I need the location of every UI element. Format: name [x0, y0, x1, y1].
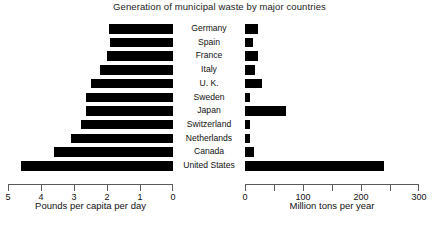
- bar-row-left: [8, 91, 173, 105]
- country-label: Spain: [173, 36, 245, 50]
- axis-tick: [418, 185, 419, 191]
- bar-row-right: [245, 77, 419, 91]
- bar-million-tons: [245, 161, 384, 171]
- axis-tick: [274, 185, 275, 191]
- country-label: U. K.: [173, 77, 245, 91]
- axis-tick: [74, 185, 75, 191]
- bar-pounds-per-capita: [107, 51, 173, 61]
- bar-million-tons: [245, 120, 250, 130]
- bar-pounds-per-capita: [100, 65, 173, 75]
- axis-tick: [140, 185, 141, 191]
- country-label: Germany: [173, 22, 245, 36]
- bar-row-right: [245, 49, 419, 63]
- bar-row-right: [245, 36, 419, 50]
- right-bar-panel: [245, 22, 419, 180]
- left-bar-panel: [8, 22, 173, 180]
- country-label: United States: [173, 159, 245, 173]
- axis-tick: [361, 185, 362, 191]
- bar-pounds-per-capita: [86, 106, 173, 116]
- bar-row-left: [8, 63, 173, 77]
- bar-row-left: [8, 104, 173, 118]
- bar-million-tons: [245, 134, 250, 144]
- bar-row-right: [245, 63, 419, 77]
- bar-million-tons: [245, 93, 250, 103]
- bar-million-tons: [245, 24, 258, 34]
- bar-row-left: [8, 145, 173, 159]
- axis-tick: [107, 185, 108, 191]
- bar-pounds-per-capita: [54, 147, 173, 157]
- country-label: Italy: [173, 63, 245, 77]
- bar-row-left: [8, 77, 173, 91]
- bar-row-left: [8, 132, 173, 146]
- waste-generation-chart: Generation of municipal waste by major c…: [0, 0, 439, 236]
- country-label: Japan: [173, 104, 245, 118]
- bar-million-tons: [245, 51, 258, 61]
- bar-row-right: [245, 118, 419, 132]
- bar-pounds-per-capita: [91, 79, 174, 89]
- bar-row-right: [245, 145, 419, 159]
- bar-million-tons: [245, 147, 254, 157]
- bar-row-right: [245, 132, 419, 146]
- right-axis: 0100200300: [245, 184, 419, 192]
- axis-tick: [390, 185, 391, 191]
- axis-tick: [41, 185, 42, 191]
- bar-row-right: [245, 104, 419, 118]
- bar-pounds-per-capita: [110, 38, 173, 48]
- axis-tick: [332, 185, 333, 191]
- bar-million-tons: [245, 65, 255, 75]
- bar-pounds-per-capita: [109, 24, 173, 34]
- bar-pounds-per-capita: [21, 161, 173, 171]
- bar-million-tons: [245, 38, 253, 48]
- country-label: Sweden: [173, 91, 245, 105]
- bar-row-left: [8, 118, 173, 132]
- bar-million-tons: [245, 106, 286, 116]
- bar-row-right: [245, 91, 419, 105]
- bar-row-right: [245, 159, 419, 173]
- bar-row-right: [245, 22, 419, 36]
- bar-row-left: [8, 49, 173, 63]
- axis-tick: [303, 185, 304, 191]
- bar-pounds-per-capita: [86, 93, 173, 103]
- bar-pounds-per-capita: [71, 134, 173, 144]
- bar-row-left: [8, 159, 173, 173]
- axis-tick: [245, 185, 246, 191]
- bar-million-tons: [245, 79, 262, 89]
- country-label: Switzerland: [173, 118, 245, 132]
- bar-row-left: [8, 36, 173, 50]
- chart-title: Generation of municipal waste by major c…: [0, 1, 439, 13]
- right-axis-title: Million tons per year: [245, 200, 419, 212]
- axis-tick: [8, 185, 9, 191]
- axis-tick: [172, 185, 173, 191]
- bar-pounds-per-capita: [81, 120, 173, 130]
- left-axis: 543210: [8, 184, 173, 192]
- country-label: Canada: [173, 145, 245, 159]
- country-label-column: GermanySpainFranceItalyU. K.SwedenJapanS…: [173, 22, 245, 180]
- left-axis-title: Pounds per capita per day: [8, 200, 173, 212]
- country-label: France: [173, 49, 245, 63]
- bar-row-left: [8, 22, 173, 36]
- country-label: Netherlands: [173, 132, 245, 146]
